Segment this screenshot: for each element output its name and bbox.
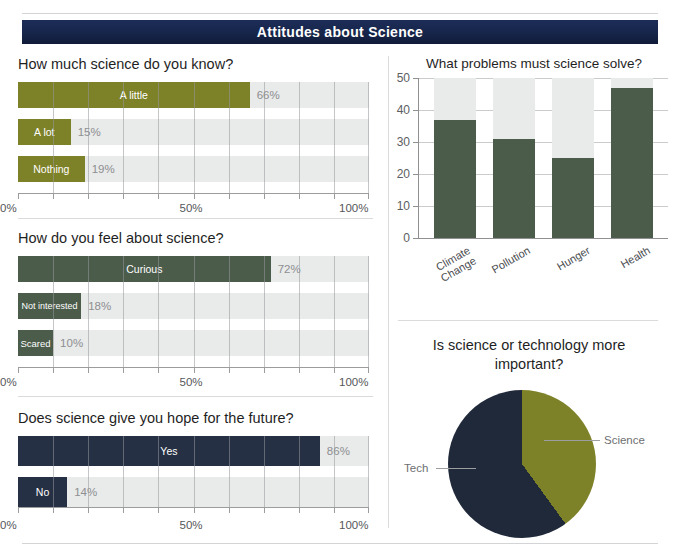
y-axis: [418, 78, 419, 238]
bar-track: Yes 86%: [18, 436, 369, 466]
bar-value: 19%: [92, 163, 115, 175]
x-tick-label: 0%: [0, 376, 17, 388]
chart-title-science-hope: Does science give you hope for the futur…: [18, 410, 378, 427]
bar-label: Yes: [156, 445, 181, 457]
page-title: Attitudes about Science: [257, 24, 423, 40]
bar-track: A little 66%: [18, 82, 369, 108]
bar-a-little: A little: [18, 82, 250, 108]
y-tick-label: 40: [388, 103, 410, 117]
bar-value: 10%: [60, 337, 83, 349]
pie-title-line-1: Is science or technology more: [398, 336, 660, 355]
pie-leader-line-tech: [436, 468, 476, 469]
x-category-label-hunger: Hunger: [538, 244, 593, 283]
bar-scared: Scared: [18, 330, 53, 356]
bar-value: 72%: [278, 263, 301, 275]
bar-track: No 14%: [18, 477, 369, 507]
bar-value: 66%: [257, 89, 280, 101]
pie-leader-line-science: [544, 440, 600, 441]
y-tick-label: 30: [388, 135, 410, 149]
x-category-label-health: Health: [598, 244, 653, 283]
bar-value: 14%: [74, 486, 97, 498]
column-bar-health: [611, 88, 653, 238]
bar-not-interested: Not interested: [18, 293, 81, 319]
section-divider: [18, 218, 373, 219]
bar-track: Scared 10%: [18, 330, 369, 356]
chart-panel-science-hope: Does science give you hope for the futur…: [18, 410, 378, 535]
bar-value: 18%: [88, 300, 111, 312]
hbar-plot-science-hope: Yes 86% No 14%: [18, 436, 369, 514]
x-tick-label: 0%: [0, 519, 17, 531]
bar-track: A lot 15%: [18, 119, 369, 145]
bar-track: Curious 72%: [18, 256, 369, 282]
x-tick-label: 50%: [180, 519, 203, 531]
column-bar-pollution: [493, 139, 535, 238]
bar-label: Scared: [17, 338, 55, 349]
chart-title-science-feeling: How do you feel about science?: [18, 230, 378, 247]
pie-chart-science-vs-tech: [448, 390, 596, 538]
section-divider: [18, 396, 373, 397]
x-axis: [418, 238, 668, 239]
bar-a-lot: A lot: [18, 119, 71, 145]
x-category-label-pollution: Pollution: [478, 244, 533, 283]
x-axis-labels: 0% 50% 100%: [18, 202, 369, 218]
bar-curious: Curious: [18, 256, 271, 282]
x-tick-label: 100%: [339, 202, 368, 214]
column-bar-hunger: [552, 158, 594, 238]
y-tick-label: 20: [388, 167, 410, 181]
chart-panel-science-vs-tech: Is science or technology more important?…: [398, 332, 660, 544]
hbar-plot-science-knowledge: A little 66% A lot 15% Nothing 19%: [18, 82, 369, 197]
bar-value: 15%: [78, 126, 101, 138]
x-axis-labels: 0% 50% 100%: [18, 376, 369, 392]
x-tick-label: 100%: [339, 376, 368, 388]
bar-yes: Yes: [18, 436, 320, 466]
bar-label: No: [32, 486, 53, 498]
x-axis-labels: 0% 50% 100%: [18, 519, 369, 535]
pie-label-tech: Tech: [404, 462, 428, 474]
top-divider: [22, 13, 658, 14]
bar-label: A lot: [30, 126, 58, 138]
section-divider: [398, 320, 658, 321]
bar-track: Nothing 19%: [18, 156, 369, 182]
pie-title-line-2: important?: [398, 355, 660, 374]
chart-title-science-problems: What problems must science solve?: [400, 56, 668, 72]
bar-label: A little: [116, 89, 152, 101]
bar-label: Nothing: [29, 163, 73, 175]
x-tick-label: 50%: [180, 376, 203, 388]
chart-panel-science-feeling: How do you feel about science? Curious 7…: [18, 230, 378, 392]
chart-panel-science-problems: What problems must science solve? 50 40 …: [400, 56, 668, 238]
bar-label: Not interested: [18, 301, 82, 311]
x-tick-label: 0%: [0, 202, 17, 214]
hbar-plot-science-feeling: Curious 72% Not interested 18% Scared 10…: [18, 256, 369, 371]
bottom-divider: [22, 543, 658, 544]
y-tick-label: 50: [388, 71, 410, 85]
column-plot-science-problems: 50 40 30 20 10 0 Climate Change Pollutio…: [418, 78, 668, 238]
bar-no: No: [18, 477, 67, 507]
chart-title-science-knowledge: How much science do you know?: [18, 56, 378, 73]
bar-label: Curious: [122, 263, 166, 275]
chart-title-science-vs-tech: Is science or technology more important?: [398, 336, 660, 373]
x-tick-label: 100%: [339, 519, 368, 531]
bar-track: Not interested 18%: [18, 293, 369, 319]
x-category-label-climate-change: Climate Change: [418, 244, 479, 293]
y-tick-label: 0: [388, 231, 410, 245]
x-tick-label: 50%: [180, 202, 203, 214]
column-divider: [388, 56, 389, 528]
chart-panel-science-knowledge: How much science do you know? A little 6…: [18, 56, 378, 218]
bar-nothing: Nothing: [18, 156, 85, 182]
y-tick-label: 10: [388, 199, 410, 213]
bar-value: 86%: [327, 445, 350, 457]
page-header-banner: Attitudes about Science: [22, 20, 658, 44]
pie-label-science: Science: [604, 434, 645, 446]
column-bar-climate-change: [434, 120, 476, 238]
